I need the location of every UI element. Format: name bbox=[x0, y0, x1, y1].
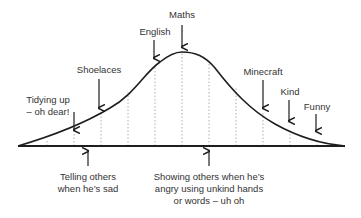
label-showing-others-angry: Showing others when he’s angry using unk… bbox=[145, 171, 273, 207]
label-english: English bbox=[134, 26, 176, 38]
label-funny: Funny bbox=[299, 101, 335, 113]
label-telling-others-sad: Telling others when he’s sad bbox=[50, 171, 126, 195]
label-minecraft: Minecraft bbox=[236, 66, 290, 78]
bottom-arrows bbox=[88, 151, 209, 166]
label-kind: Kind bbox=[276, 86, 304, 98]
top-arrows bbox=[74, 25, 316, 131]
bell-curve-diagram: Tidying up – oh dear! Shoelaces English … bbox=[0, 0, 361, 218]
label-maths: Maths bbox=[164, 9, 200, 21]
label-tidying-up: Tidying up – oh dear! bbox=[22, 94, 74, 118]
label-shoelaces: Shoelaces bbox=[72, 64, 126, 76]
